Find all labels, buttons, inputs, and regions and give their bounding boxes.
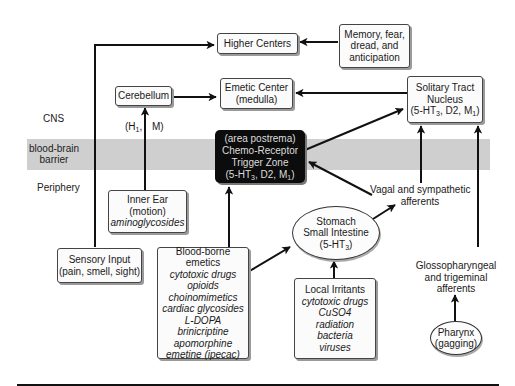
solitary-tract-receptors: (5-HT3, D2, M1) <box>411 105 480 117</box>
list-item: apomorphine <box>174 338 232 350</box>
list-item: L-DOPA <box>185 315 222 327</box>
node-blood-borne-emetics: Blood-borne emetics cytotoxic drugs opio… <box>157 247 249 359</box>
arrow-vagal-to-ctz <box>309 162 372 195</box>
arrow-blood-borne-to-stomach <box>248 247 290 272</box>
receptor-label-h1: (H1, <box>125 121 142 133</box>
node-emetic-center: Emetic Center (medulla) <box>220 78 293 109</box>
list-item: bacteria <box>317 330 353 342</box>
node-higher-centers: Higher Centers <box>217 33 298 54</box>
list-item: cytotoxic drugs <box>302 296 369 308</box>
list-item: choinomimetics <box>169 292 238 304</box>
node-stomach-small-intestine: Stomach Small Intestine (5-HT3) <box>292 206 380 260</box>
stomach-receptors: (5-HT3) <box>320 239 353 251</box>
list-item: opioids <box>187 280 219 292</box>
node-pharynx: Pharynx (gagging) <box>430 321 482 355</box>
node-cerebellum: Cerebellum <box>115 86 172 106</box>
receptor-label-m: M) <box>152 121 164 133</box>
list-item: emetine (ipecac) <box>166 349 240 361</box>
arrow-stomach-to-vagal <box>373 205 395 219</box>
arrow-ctz-to-solitary-tract <box>305 109 403 150</box>
list-item: viruses <box>319 342 351 354</box>
ctz-receptors: (5-HT3, D2, M1) <box>226 169 295 181</box>
list-item: cardiac glycosides <box>162 303 244 315</box>
node-glossopharyngeal-trigeminal-afferents: Glossopharyngeal and trigeminal afferent… <box>410 260 502 295</box>
list-item: brinicriptine <box>177 326 228 338</box>
node-solitary-tract-nucleus: Solitary Tract Nucleus (5-HT3, D2, M1) <box>407 76 483 123</box>
node-sensory-input: Sensory Input (pain, smell, sight) <box>57 248 142 283</box>
node-chemoreceptor-trigger-zone: (area postrema) Chemo-Receptor Trigger Z… <box>215 130 305 183</box>
node-inner-ear: Inner Ear (motion) aminoglycosides <box>108 190 187 233</box>
node-memory-fear-dread: Memory, fear, dread, and anticipation <box>339 24 410 68</box>
node-local-irritants: Local Irritants cytotoxic drugs CuSO4 ra… <box>294 278 376 359</box>
list-item: radiation <box>316 319 354 331</box>
list-item: cytotoxic drugs <box>170 269 237 281</box>
list-item: CuSO4 <box>319 307 352 319</box>
node-vagal-sympathetic-afferents: Vagal and sympathetic afferents <box>370 184 470 207</box>
